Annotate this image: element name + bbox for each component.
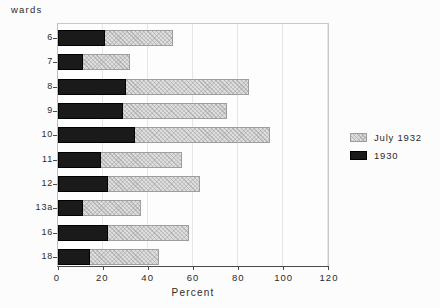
bar-row-ward-8 <box>58 79 328 95</box>
bar-row-ward-11 <box>58 152 328 168</box>
bar-row-ward-12 <box>58 176 328 192</box>
ward-label-16: 16 <box>20 224 53 240</box>
ward-label-8: 8 <box>20 78 53 94</box>
y-tick-ward-7 <box>53 62 57 63</box>
bar-row-ward-18 <box>58 249 328 265</box>
bar-row-ward-10 <box>58 127 328 143</box>
ward-label-9: 9 <box>20 102 53 118</box>
bar-1930-ward-12 <box>58 176 108 192</box>
y-tick-ward-9 <box>53 111 57 112</box>
x-tick-40 <box>148 266 149 270</box>
ward-label-13a: 13a <box>20 199 53 215</box>
ward-label-11: 11 <box>20 151 53 167</box>
bar-1930-ward-13a <box>58 200 83 216</box>
bar-1930-ward-10 <box>58 127 135 143</box>
bar-1930-ward-7 <box>58 54 83 70</box>
x-tick-0 <box>58 266 59 270</box>
bar-row-ward-13a <box>58 200 328 216</box>
y-axis-title: wards <box>11 4 42 15</box>
y-tick-ward-13a <box>53 208 57 209</box>
ward-label-18: 18 <box>20 248 53 264</box>
ward-label-12: 12 <box>20 175 53 191</box>
y-tick-ward-12 <box>53 184 57 185</box>
ward-label-7: 7 <box>20 53 53 69</box>
y-tick-ward-11 <box>53 160 57 161</box>
ward-label-10: 10 <box>20 126 53 142</box>
bar-row-ward-6 <box>58 30 328 46</box>
x-tick-100 <box>283 266 284 270</box>
x-tick-label-20: 20 <box>85 272 119 283</box>
x-tick-60 <box>193 266 194 270</box>
bar-1930-ward-11 <box>58 152 101 168</box>
x-tick-80 <box>238 266 239 270</box>
y-tick-ward-10 <box>53 135 57 136</box>
x-tick-label-60: 60 <box>176 272 210 283</box>
y-tick-ward-18 <box>53 257 57 258</box>
x-axis-title: Percent <box>57 287 329 298</box>
y-tick-ward-16 <box>53 233 57 234</box>
x-tick-label-120: 120 <box>312 272 346 283</box>
y-tick-ward-8 <box>53 87 57 88</box>
bar-row-ward-9 <box>58 103 328 119</box>
legend-label: 1930 <box>374 150 398 161</box>
bar-row-ward-7 <box>58 54 328 70</box>
bar-row-ward-16 <box>58 225 328 241</box>
bar-1930-ward-8 <box>58 79 126 95</box>
x-tick-120 <box>328 266 329 270</box>
bar-1930-ward-16 <box>58 225 108 241</box>
x-tick-label-40: 40 <box>131 272 165 283</box>
x-tick-label-80: 80 <box>221 272 255 283</box>
legend-swatch-solid <box>350 151 367 160</box>
bar-1930-ward-6 <box>58 30 105 46</box>
x-tick-20 <box>103 266 104 270</box>
x-tick-label-100: 100 <box>267 272 301 283</box>
legend-label: July 1932 <box>374 132 422 143</box>
bar-1930-ward-9 <box>58 103 123 119</box>
plot-area <box>57 23 329 267</box>
x-tick-label-0: 0 <box>40 272 74 283</box>
legend-swatch-hatched <box>350 133 367 142</box>
bar-1930-ward-18 <box>58 249 90 265</box>
y-tick-ward-6 <box>53 38 57 39</box>
ward-label-6: 6 <box>20 29 53 45</box>
bar-chart: wards 678910111213a1618 020406080100120 … <box>0 0 440 308</box>
